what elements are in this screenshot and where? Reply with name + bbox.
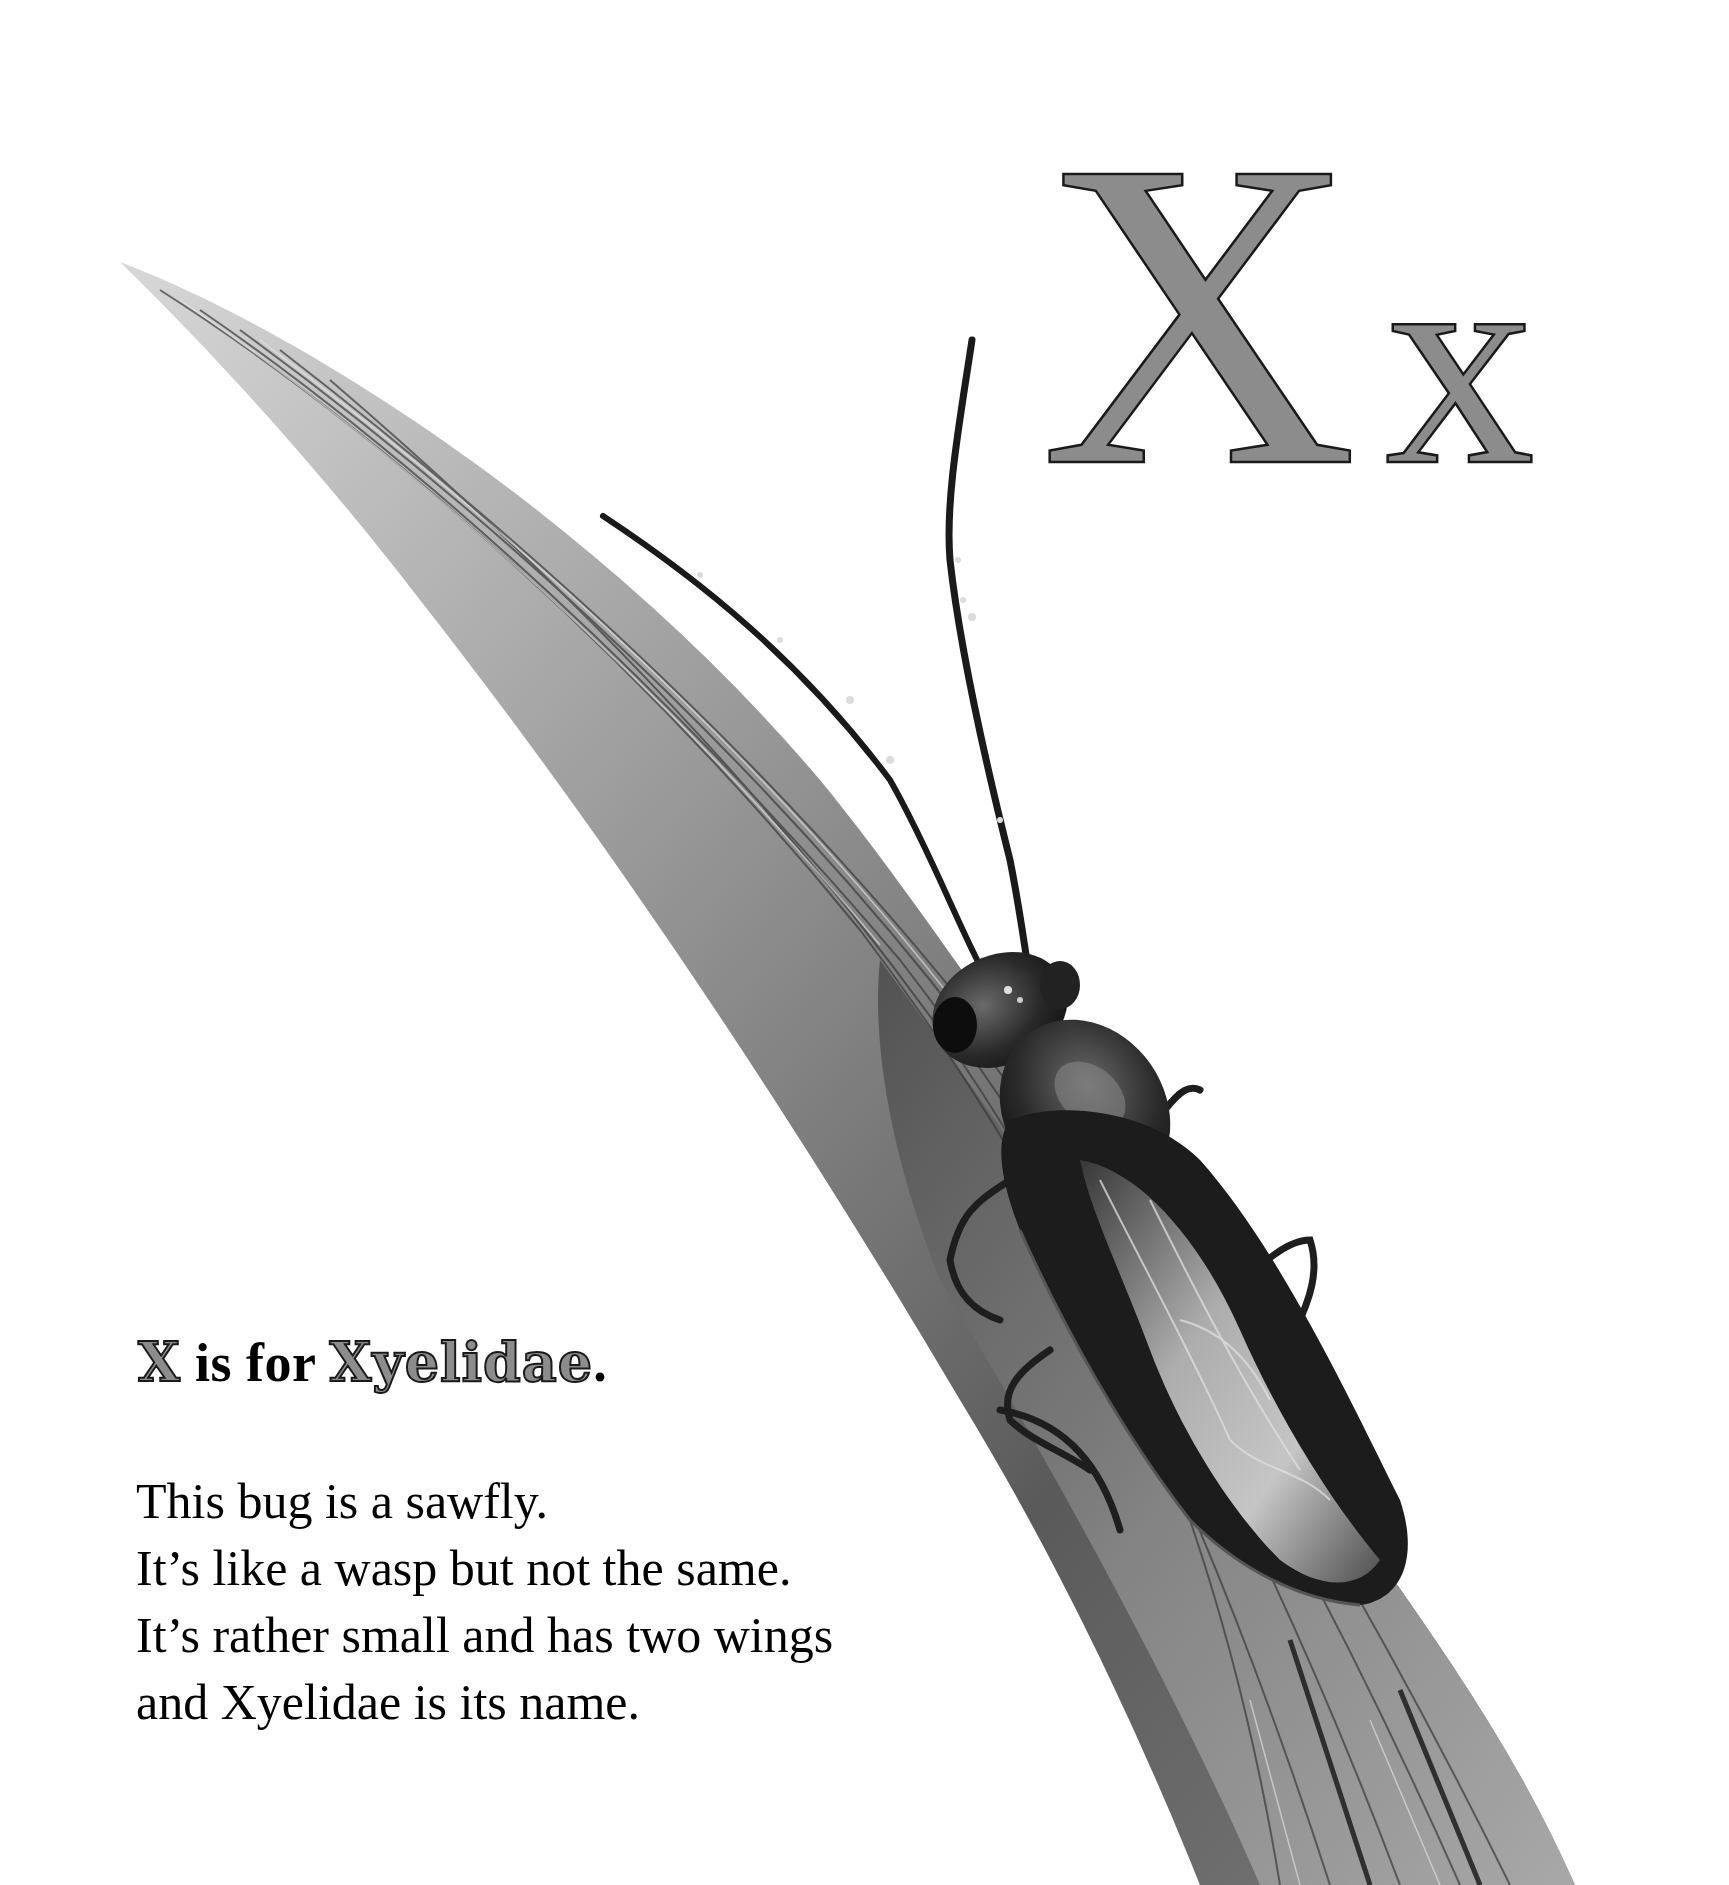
poem-text: This bug is a sawfly. It’s like a wasp b…	[136, 1468, 833, 1736]
heading-connector: is for	[181, 1333, 330, 1393]
poem-line-1: This bug is a sawfly.	[136, 1468, 833, 1535]
book-page: X x X is for Xyelidae. This bug is a saw…	[0, 0, 1729, 1885]
page-heading: X is for Xyelidae.	[138, 1330, 607, 1394]
heading-letter: X	[138, 1330, 181, 1394]
poem-line-3: It’s rather small and has two wings	[136, 1602, 833, 1669]
letter-uppercase: X	[1040, 100, 1358, 480]
letter-lowercase: x	[1385, 195, 1535, 480]
letter-xx-display: X x	[1040, 100, 1640, 480]
heading-period: .	[593, 1333, 607, 1393]
poem-line-2: It’s like a wasp but not the same.	[136, 1535, 833, 1602]
heading-word: Xyelidae	[329, 1330, 593, 1394]
poem-line-4: and Xyelidae is its name.	[136, 1669, 833, 1736]
